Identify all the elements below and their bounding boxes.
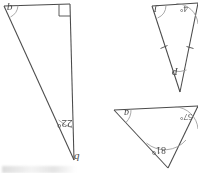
triangle-top-right-left-edge [152,6,180,92]
triangle-top-right-top-edge [152,3,198,6]
right-angle-marker-left-triangle [59,5,70,16]
label-triangle-left-vertex: q [7,3,13,14]
triangle-left-right-edge [70,4,74,160]
label-triangle-left-side: q [74,150,80,161]
label-triangle-top-right-right-angle: 4° [180,4,188,13]
figure-triangle-left [4,4,74,160]
label-triangle-top-right-apex: P [172,66,178,76]
label-triangle-bottom-right-left-vertex: a [124,108,129,118]
triangle-left-top-edge [4,4,70,6]
label-triangle-top-right-left-vertex: J [154,3,158,13]
tick-mark-right-side-icon [187,47,194,49]
label-triangle-bottom-right-right-angle: 57° [180,112,193,121]
angle-arc-top-right-left-vertex [158,5,166,18]
geometry-figures-svg [0,0,198,173]
triangle-left-hypotenuse [4,6,74,160]
label-triangle-left-base-angle: 22° [57,118,72,129]
scanned-worksheet-canvas [0,0,198,173]
tick-mark-left-side-icon [161,46,168,49]
triangle-bottom-right-left-edge [114,110,168,168]
scan-edge-artifact [2,166,76,173]
label-triangle-bottom-right-bottom-angle: 81° [152,145,166,155]
